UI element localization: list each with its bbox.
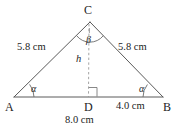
vertex-label-c: C (84, 4, 92, 16)
vertex-label-d: D (84, 101, 93, 113)
side-label-left-5-8-cm: 5.8 cm (17, 42, 46, 53)
base-label-8-0-cm: 8.0 cm (65, 115, 94, 126)
altitude-label-h: h (76, 54, 81, 65)
geometry-figure: C A D B 5.8 cm 5.8 cm 4.0 cm 8.0 cm h α … (0, 0, 177, 133)
vertex-label-b: B (163, 101, 171, 113)
side-label-right-5-8-cm: 5.8 cm (118, 42, 147, 53)
angle-label-alpha-a: α (31, 84, 36, 94)
vertex-label-a: A (5, 101, 14, 113)
side-cb-line (90, 22, 163, 97)
right-angle-marker-icon (89, 88, 97, 97)
segment-label-db-4-0-cm: 4.0 cm (116, 101, 145, 112)
angle-label-alpha-b: α (139, 84, 144, 94)
angle-label-beta-c: β (86, 35, 91, 45)
